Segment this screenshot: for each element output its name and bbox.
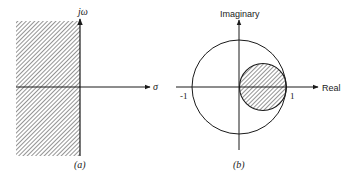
- diagram-canvas: jω σ (a) Imaginary Real -1 1 (b): [0, 0, 352, 182]
- sigma-axis-label: σ: [153, 81, 159, 92]
- left-half-plane-shaded-region: [16, 21, 80, 156]
- tick-label-one: 1: [290, 91, 295, 101]
- tick-label-neg-one: -1: [180, 91, 188, 101]
- imaginary-axis-label: Imaginary: [220, 9, 260, 19]
- jw-axis-label: jω: [76, 6, 88, 17]
- real-axis-label: Real: [322, 83, 341, 93]
- caption-a: (a): [74, 159, 86, 171]
- figure-a: jω σ (a): [16, 6, 159, 171]
- figure-b: Imaginary Real -1 1 (b): [176, 9, 341, 171]
- caption-b: (b): [233, 159, 245, 171]
